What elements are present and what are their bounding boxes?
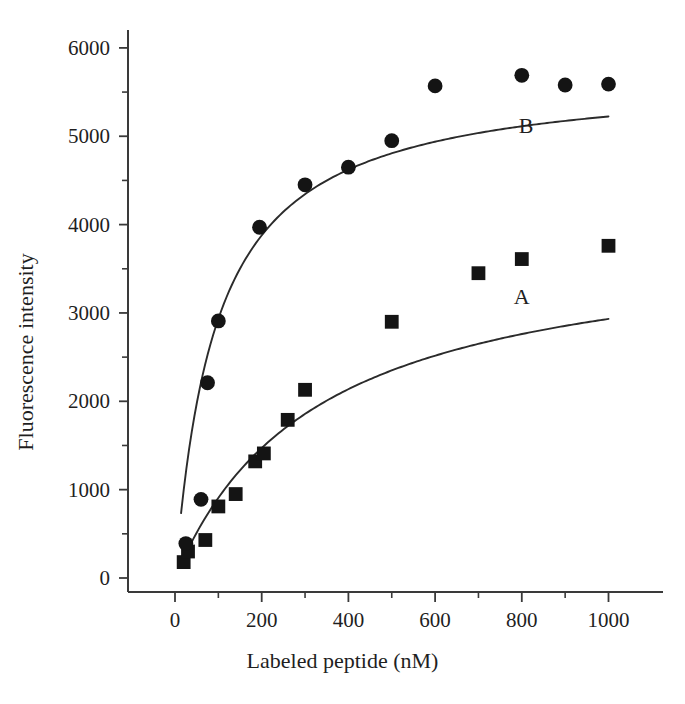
data-point-b — [384, 133, 399, 148]
fit-curve-b — [181, 116, 608, 513]
data-point-b — [211, 314, 226, 329]
data-point-b — [601, 77, 616, 92]
x-axis-tick-label: 1000 — [588, 608, 630, 633]
data-point-a — [229, 487, 243, 501]
series-label-a: A — [514, 284, 530, 310]
data-point-b — [194, 492, 209, 507]
fluorescence-binding-chart: Fluorescence intensity Labeled peptide (… — [0, 0, 685, 704]
y-axis-tick-label: 2000 — [0, 389, 110, 414]
fit-curve-a — [183, 319, 609, 560]
data-point-a — [298, 383, 312, 397]
x-axis-tick-label: 0 — [170, 608, 181, 633]
y-axis-tick-label: 0 — [0, 566, 110, 591]
y-axis-tick-label: 5000 — [0, 124, 110, 149]
series-label-b: B — [519, 113, 534, 139]
y-axis-label: Fluorescence intensity — [6, 0, 46, 704]
data-point-a — [211, 500, 225, 514]
data-point-a — [472, 266, 486, 280]
data-point-b — [558, 78, 573, 93]
x-axis-tick-label: 800 — [506, 608, 538, 633]
data-point-a — [385, 315, 399, 329]
data-point-b — [178, 536, 193, 551]
data-point-a — [198, 533, 212, 547]
data-point-a — [257, 447, 271, 461]
x-axis-label: Labeled peptide (nM) — [0, 648, 685, 674]
data-point-a — [281, 413, 295, 427]
data-point-a — [602, 239, 616, 253]
y-axis-tick-label: 6000 — [0, 35, 110, 60]
data-point-b — [341, 160, 356, 175]
y-axis-tick-label: 1000 — [0, 477, 110, 502]
data-point-a — [515, 252, 529, 266]
data-point-b — [428, 78, 443, 93]
y-axis-tick-label: 3000 — [0, 300, 110, 325]
y-axis-tick-label: 4000 — [0, 212, 110, 237]
data-point-b — [298, 177, 313, 192]
data-point-b — [514, 68, 529, 83]
x-axis-tick-label: 200 — [246, 608, 278, 633]
data-point-b — [200, 375, 215, 390]
plot-canvas — [0, 0, 685, 704]
x-axis-tick-label: 600 — [419, 608, 451, 633]
x-axis-tick-label: 400 — [333, 608, 365, 633]
data-point-b — [252, 220, 267, 235]
